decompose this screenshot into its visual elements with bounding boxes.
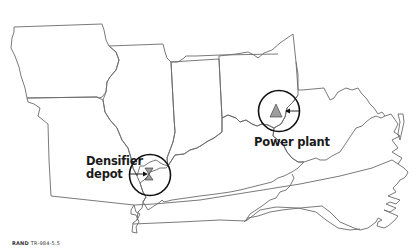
power-plant-label: Power plant bbox=[254, 136, 330, 149]
densifier-depot-label: Densifier depot bbox=[86, 155, 143, 181]
triangle-icon bbox=[270, 104, 282, 117]
state-maryland-coast bbox=[385, 114, 404, 168]
state-iowa bbox=[11, 24, 119, 98]
figure-credit: RAND TR-984-5.5 bbox=[12, 240, 60, 246]
depot-arrowhead-icon bbox=[143, 172, 148, 177]
credit-code: TR-984-5.5 bbox=[31, 240, 60, 246]
state-indiana bbox=[167, 59, 222, 166]
state-tennessee-south-border bbox=[133, 220, 246, 224]
credit-org: RAND bbox=[12, 240, 29, 246]
densifier-depot-label-line2: depot bbox=[86, 168, 143, 181]
state-kentucky bbox=[140, 115, 304, 210]
state-delaware bbox=[398, 114, 404, 140]
state-tennessee-north-border bbox=[134, 160, 398, 205]
state-tennessee-nc-border bbox=[244, 174, 294, 222]
state-nc-south-border bbox=[246, 207, 360, 230]
state-outline-map bbox=[0, 0, 420, 250]
